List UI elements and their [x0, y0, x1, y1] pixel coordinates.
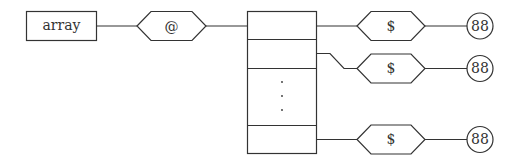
value-label: 88 — [471, 18, 489, 34]
ref-label: @ — [165, 18, 179, 34]
ellipsis-dot — [281, 109, 283, 111]
scalar-ref-label: $ — [387, 60, 396, 76]
value-label: 88 — [471, 60, 489, 76]
array-label: array — [43, 17, 81, 33]
element-row-1: $ 88 — [317, 12, 494, 41]
value-label: 88 — [471, 131, 489, 147]
scalar-ref-label: $ — [387, 131, 396, 147]
ellipsis-dot — [281, 95, 283, 97]
element-row-2: $ 88 — [317, 54, 494, 84]
element-row-3: $ 88 — [317, 125, 494, 154]
ellipsis-dot — [281, 81, 283, 83]
array-stack — [248, 12, 317, 154]
connector-stack-to-scalar-ref — [317, 54, 358, 69]
array-reference-diagram: array @ $ 88 $ 88 $ — [0, 0, 519, 162]
array-ref-node: @ — [137, 12, 206, 41]
scalar-ref-label: $ — [387, 18, 396, 34]
array-node: array — [27, 12, 97, 41]
